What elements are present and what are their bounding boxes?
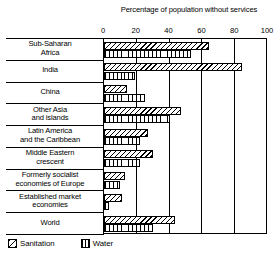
category-label-line: India bbox=[42, 66, 58, 75]
row-separator bbox=[6, 169, 104, 170]
category-label: Sub-SaharanAfrica bbox=[0, 38, 100, 60]
category-label: Other Asiaand islands bbox=[0, 103, 100, 125]
category-label: Formerly socialisteconomies of Europe bbox=[0, 169, 100, 191]
bar-water bbox=[104, 94, 145, 102]
legend-label-water: Water bbox=[93, 239, 114, 248]
row-separator bbox=[6, 212, 104, 213]
legend-item-sanitation: Sanitation bbox=[8, 239, 55, 248]
x-tick-label-80: 80 bbox=[230, 26, 238, 35]
legend-item-water: Water bbox=[81, 239, 114, 248]
bar-water bbox=[104, 224, 153, 232]
x-tick-label-100: 100 bbox=[261, 26, 274, 35]
row-separator bbox=[6, 60, 104, 61]
row-separator bbox=[6, 234, 104, 235]
category-label-column: Sub-SaharanAfricaIndiaChinaOther Asiaand… bbox=[0, 38, 104, 234]
category-label-line: China bbox=[40, 88, 59, 97]
category-label-line: World bbox=[41, 219, 60, 228]
x-tick-label-60: 60 bbox=[197, 26, 205, 35]
bar-sanitation bbox=[104, 107, 181, 115]
x-tick-label-20: 20 bbox=[132, 26, 140, 35]
plot-area bbox=[103, 38, 267, 234]
x-axis-tick-labels: 020406080100 bbox=[0, 26, 277, 37]
category-label: India bbox=[0, 60, 100, 82]
legend-label-sanitation: Sanitation bbox=[20, 239, 55, 248]
category-label-line: economies of Europe bbox=[16, 180, 85, 189]
category-label-line: and islands bbox=[32, 114, 69, 123]
category-label: Established marketeconomies bbox=[0, 190, 100, 212]
diagonal-hatch-swatch-icon bbox=[8, 239, 17, 248]
row-separator bbox=[6, 190, 104, 191]
chart-legend: Sanitation Water bbox=[8, 239, 113, 248]
bar-water bbox=[104, 137, 140, 145]
category-label-line: Africa bbox=[41, 49, 60, 58]
bar-water bbox=[104, 181, 120, 189]
bar-chart: Percentage of population without service… bbox=[0, 0, 277, 255]
x-tick-label-40: 40 bbox=[164, 26, 172, 35]
category-label: Middle Easterncrescent bbox=[0, 147, 100, 169]
bar-water bbox=[104, 72, 135, 80]
category-label-line: and the Caribbean bbox=[20, 136, 80, 145]
bar-water bbox=[104, 202, 109, 210]
bar-sanitation bbox=[104, 129, 148, 137]
row-separator bbox=[6, 147, 104, 148]
bar-sanitation bbox=[104, 63, 242, 71]
bar-water bbox=[104, 50, 191, 58]
bar-water bbox=[104, 159, 140, 167]
bar-sanitation bbox=[104, 216, 175, 224]
bar-water bbox=[104, 115, 170, 123]
row-separator bbox=[6, 103, 104, 104]
x-tick-label-0: 0 bbox=[101, 26, 105, 35]
category-label-line: crescent bbox=[36, 158, 64, 167]
row-separator bbox=[6, 125, 104, 126]
bar-sanitation bbox=[104, 150, 153, 158]
bar-sanitation bbox=[104, 194, 122, 202]
row-separator bbox=[6, 38, 104, 39]
vertical-hatch-swatch-icon bbox=[81, 239, 90, 248]
category-label: China bbox=[0, 82, 100, 104]
category-label-line: economies bbox=[32, 201, 67, 210]
bar-sanitation bbox=[104, 85, 127, 93]
bar-sanitation bbox=[104, 42, 209, 50]
bar-sanitation bbox=[104, 172, 125, 180]
category-label: World bbox=[0, 212, 100, 234]
category-label: Latin Americaand the Caribbean bbox=[0, 125, 100, 147]
chart-title: Percentage of population without service… bbox=[103, 5, 275, 14]
row-separator bbox=[6, 82, 104, 83]
